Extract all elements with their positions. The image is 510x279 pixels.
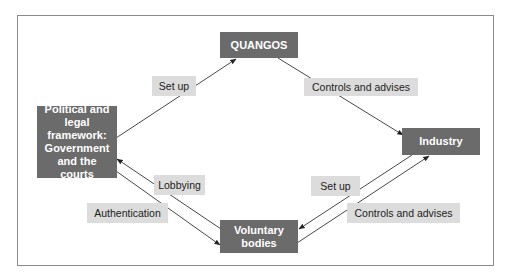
node-voluntary-bodies: Voluntary bodies	[220, 220, 298, 253]
node-quangos: QUANGOS	[220, 32, 298, 58]
edge-label-controls-bottom: Controls and advises	[347, 203, 460, 223]
edge-label-setup-bottom: Set up	[311, 176, 360, 196]
edge-label-authentication: Authentication	[87, 203, 168, 223]
node-industry: Industry	[402, 128, 480, 155]
edge-label-setup-top: Set up	[152, 76, 196, 96]
edge-controls-top	[278, 58, 403, 135]
edge-setup-top	[116, 59, 236, 138]
edge-label-controls-top: Controls and advises	[304, 78, 418, 96]
edge-label-lobbying: Lobbying	[154, 175, 205, 195]
edge-controls-bottom	[297, 156, 429, 243]
node-political-legal-framework: Political and legal framework: Governmen…	[37, 106, 117, 178]
